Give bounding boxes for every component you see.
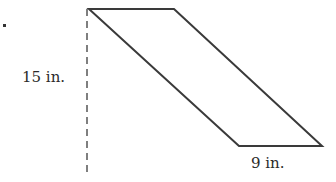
- parallelogram-shape: [89, 9, 322, 146]
- parallelogram-diagram: 15 in. 9 in.: [0, 0, 336, 182]
- height-label: 15 in.: [22, 68, 65, 86]
- base-label: 9 in.: [251, 154, 285, 172]
- bullet-marker: [3, 24, 6, 27]
